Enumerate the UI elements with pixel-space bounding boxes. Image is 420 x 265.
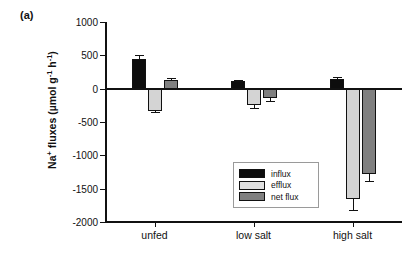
legend-item-label: influx (271, 169, 291, 179)
legend-item: influx (239, 169, 313, 179)
x-axis-tick (254, 222, 255, 227)
y-axis-tick (100, 89, 105, 90)
y-axis-tick (100, 222, 105, 223)
bar-net-flux-low-salt (263, 89, 277, 98)
error-bar-cap (167, 78, 176, 79)
legend-item: net flux (239, 192, 313, 202)
y-axis-title: Na+ fluxes (µmol g-1 h-1) (42, 20, 62, 200)
legend-item-label: net flux (271, 192, 298, 202)
y-axis-tick-label: -2000 (72, 217, 98, 228)
legend-item-label: efflux (271, 180, 291, 190)
error-bar-cap (234, 80, 243, 81)
x-axis-tick-label: low salt (236, 229, 271, 241)
bar-influx-high-salt (330, 79, 344, 89)
plot-area: 10005000-500-1000-1500-2000 unfedlow sal… (105, 22, 402, 222)
y-axis-tick-label: 1000 (76, 17, 98, 28)
x-axis-tick-label: high salt (333, 229, 372, 241)
x-axis-tick-label: unfed (141, 229, 167, 241)
bar-efflux-unfed (148, 89, 162, 111)
legend-swatch-icon (239, 181, 265, 190)
legend-item: efflux (239, 180, 313, 190)
y-axis-tick (100, 22, 105, 23)
legend-swatch-icon (239, 192, 265, 201)
y-axis-tick (100, 155, 105, 156)
y-axis-tick-label: -1000 (72, 150, 98, 161)
bar-net-flux-unfed (164, 80, 178, 89)
bar-net-flux-high-salt (362, 89, 376, 174)
legend-swatch-icon (239, 169, 265, 178)
y-axis-tick (100, 122, 105, 123)
error-bar-cap (333, 77, 342, 78)
y-axis-tick (100, 189, 105, 190)
y-axis-tick-label: 0 (92, 83, 98, 94)
y-axis-tick (100, 55, 105, 56)
bar-influx-unfed (132, 59, 146, 89)
y-axis-title-text: Na+ fluxes (µmol g-1 h-1) (46, 51, 58, 169)
y-axis-tick-label: 500 (81, 50, 98, 61)
error-bar-cap (250, 108, 259, 109)
error-bar-line (353, 199, 354, 211)
chart-legend: influxeffluxnet flux (233, 162, 319, 208)
error-bar-cap (135, 55, 144, 56)
y-axis-line (105, 22, 107, 222)
y-axis-tick-label: -500 (78, 117, 98, 128)
error-bar-cap (266, 101, 275, 102)
panel-label: (a) (20, 9, 33, 21)
x-axis-tick (155, 222, 156, 227)
error-bar-cap (151, 112, 160, 113)
y-axis-tick-label: -1500 (72, 183, 98, 194)
error-bar-cap (365, 181, 374, 182)
error-bar-line (369, 174, 370, 181)
figure-panel-a: (a) Na+ fluxes (µmol g-1 h-1) 10005000-5… (0, 0, 420, 265)
error-bar-cap (349, 210, 358, 211)
x-axis-tick (353, 222, 354, 227)
bar-influx-low-salt (231, 81, 245, 88)
bar-efflux-low-salt (247, 89, 261, 106)
bar-efflux-high-salt (346, 89, 360, 199)
